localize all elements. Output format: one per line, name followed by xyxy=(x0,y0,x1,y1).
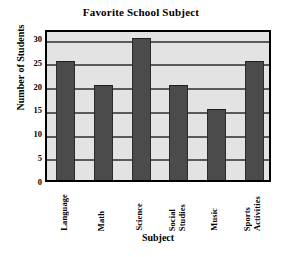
bar xyxy=(245,61,264,180)
x-tick-label: SportsActivities xyxy=(233,183,271,231)
x-tick-label-line: Sports xyxy=(242,207,252,231)
bar xyxy=(94,85,113,180)
x-tick-label-line: Social xyxy=(167,209,177,231)
bar xyxy=(56,61,75,180)
x-tick-label-line: Music xyxy=(209,208,219,231)
y-tick-label: 0 xyxy=(22,178,42,187)
x-tick-label: Science xyxy=(120,183,158,231)
bars-container xyxy=(47,32,269,180)
x-tick-label: Math xyxy=(83,183,121,231)
plot-area xyxy=(45,30,271,182)
y-tick-label: 10 xyxy=(22,130,42,139)
bar xyxy=(169,85,188,180)
x-tick-label-line: Math xyxy=(96,211,106,231)
x-tick-label-line: Activities xyxy=(252,196,262,231)
x-tick-label: SocialStudies xyxy=(158,183,196,231)
y-tick-label: 30 xyxy=(22,35,42,44)
bar xyxy=(207,109,226,180)
x-tick-label: Language xyxy=(45,183,83,231)
x-axis-title: Subject xyxy=(45,232,271,243)
x-axis-tick-labels: LanguageMathScienceSocialStudiesMusicSpo… xyxy=(45,183,271,231)
x-tick-label-line: Studies xyxy=(177,204,187,231)
chart-title: Favorite School Subject xyxy=(0,6,282,18)
bar-chart-figure: Favorite School Subject Number of Studen… xyxy=(0,0,282,257)
y-tick-label: 5 xyxy=(22,154,42,163)
y-tick-label: 20 xyxy=(22,83,42,92)
y-tick-label: 15 xyxy=(22,106,42,115)
bar xyxy=(132,38,151,181)
x-tick-label-line: Language xyxy=(59,194,69,231)
x-tick-label: Music xyxy=(196,183,234,231)
y-axis-tick-labels: 051015202530 xyxy=(22,30,42,182)
x-tick-label-line: Science xyxy=(134,203,144,231)
y-tick-label: 25 xyxy=(22,59,42,68)
